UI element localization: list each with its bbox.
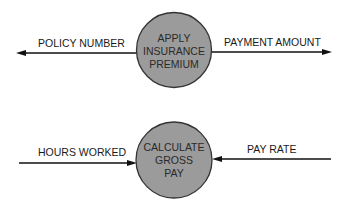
flow-label-policy-number: POLICY NUMBER xyxy=(38,37,125,49)
process-label-line-3: PREMIUM xyxy=(149,58,199,70)
process-calculate-gross-pay-group: HOURS WORKED PAY RATE CALCULATE GROSS PA… xyxy=(19,122,331,198)
arrowhead-right-icon xyxy=(322,49,332,55)
process-label-line-2: INSURANCE xyxy=(143,45,205,57)
flow-label-payment-amount: PAYMENT AMOUNT xyxy=(224,36,321,48)
process-apply-insurance-premium-group: POLICY NUMBER PAYMENT AMOUNT APPLY INSUR… xyxy=(16,13,332,88)
arrowhead-left-icon xyxy=(16,50,26,56)
flow-label-pay-rate: PAY RATE xyxy=(247,143,296,155)
process-label-line-1: APPLY xyxy=(157,32,190,44)
process-label-line-1: CALCULATE xyxy=(143,141,204,153)
flow-label-hours-worked: HOURS WORKED xyxy=(38,146,127,158)
process-label-line-2: GROSS xyxy=(155,154,193,166)
arrowhead-left-icon xyxy=(212,156,222,162)
process-label-line-3: PAY xyxy=(164,167,183,179)
data-flow-diagram: POLICY NUMBER PAYMENT AMOUNT APPLY INSUR… xyxy=(0,0,347,210)
